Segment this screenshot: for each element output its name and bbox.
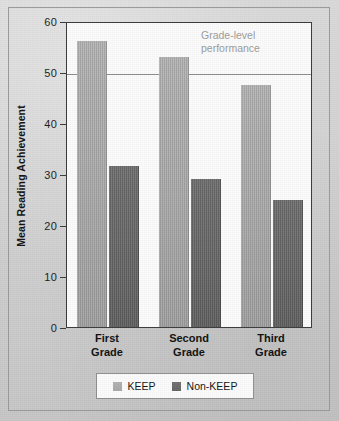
- y-axis-tick-label: 40: [44, 118, 57, 130]
- y-axis-tick-label: 20: [44, 220, 57, 232]
- legend: KEEP Non-KEEP: [96, 373, 254, 399]
- x-axis-label-line-1: First: [66, 332, 148, 346]
- x-axis-label-line-1: Third: [230, 332, 312, 346]
- bar-nonkeep-1: [109, 166, 139, 327]
- legend-swatch-icon-keep: [113, 382, 122, 391]
- figure-background: Mean Reading Achievement 6050403020100 G…: [0, 0, 339, 421]
- annotation-line-1: Grade-level: [201, 29, 303, 42]
- x-axis-label-group-2: SecondGrade: [148, 332, 230, 359]
- legend-item-keep: KEEP: [113, 380, 156, 392]
- bar-nonkeep-3: [273, 200, 303, 328]
- y-axis-tick-label: 0: [51, 322, 57, 334]
- y-axis-tick-label: 60: [44, 16, 57, 28]
- x-axis-label-line-2: Grade: [148, 346, 230, 360]
- x-axis-labels: FirstGradeSecondGradeThirdGrade: [66, 332, 312, 372]
- y-axis-tick-label: 10: [44, 271, 57, 283]
- x-axis-label-group-3: ThirdGrade: [230, 332, 312, 359]
- y-axis-title: Mean Reading Achievement: [15, 61, 27, 291]
- annotation-line-2: performance: [201, 42, 303, 55]
- y-axis-tick-label: 50: [44, 67, 57, 79]
- bar-keep-3: [241, 85, 271, 327]
- legend-label-keep: KEEP: [128, 380, 156, 392]
- x-axis-label-group-1: FirstGrade: [66, 332, 148, 359]
- x-axis-label-line-1: Second: [148, 332, 230, 346]
- legend-label-nonkeep: Non-KEEP: [187, 380, 238, 392]
- grade-level-annotation: Grade-level performance: [201, 29, 303, 55]
- x-axis-label-line-2: Grade: [66, 346, 148, 360]
- legend-item-nonkeep: Non-KEEP: [172, 380, 238, 392]
- bar-keep-2: [159, 57, 189, 327]
- plot-area: Grade-level performance: [66, 22, 312, 328]
- bar-keep-1: [77, 41, 107, 327]
- legend-swatch-icon-nonkeep: [172, 382, 181, 391]
- x-axis-label-line-2: Grade: [230, 346, 312, 360]
- y-axis-tick-label: 30: [44, 169, 57, 181]
- y-axis: Mean Reading Achievement 6050403020100: [0, 22, 66, 328]
- bar-nonkeep-2: [191, 179, 221, 327]
- y-axis-tick: [60, 328, 66, 329]
